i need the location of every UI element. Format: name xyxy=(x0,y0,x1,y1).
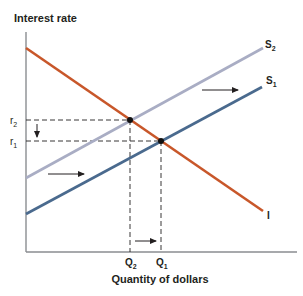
supply-curve-s1 xyxy=(26,87,262,214)
supply-curve-s2 xyxy=(26,48,263,178)
equilibrium-point-new xyxy=(158,138,164,144)
q1-label: Q1 xyxy=(156,257,168,270)
i-curve-label: I xyxy=(267,210,270,221)
shift-arrows xyxy=(37,90,238,241)
equilibrium-point-initial xyxy=(127,117,133,123)
s2-curve-label: S2 xyxy=(265,39,276,52)
x-axis-title: Quantity of dollars xyxy=(111,273,208,285)
r2-label: r2 xyxy=(10,115,17,128)
s1-curve-label: S1 xyxy=(266,75,277,88)
investment-curve-i xyxy=(26,48,263,211)
q2-label: Q2 xyxy=(125,257,137,270)
y-axis-title: Interest rate xyxy=(14,12,77,24)
r1-label: r1 xyxy=(10,136,17,149)
interest-rate-chart: Interest rate r2 r1 Q2 Q1 Quantity of do… xyxy=(0,0,303,296)
